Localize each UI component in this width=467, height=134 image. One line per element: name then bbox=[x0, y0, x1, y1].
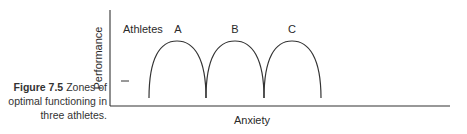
series-label-b: B bbox=[231, 23, 238, 35]
legend-title: Athletes bbox=[123, 23, 163, 35]
series-label-c: C bbox=[288, 23, 296, 35]
curve-b bbox=[206, 41, 264, 98]
y-axis-label: Performance bbox=[92, 27, 104, 90]
curve-a bbox=[149, 41, 206, 98]
series-label-a: A bbox=[174, 23, 182, 35]
curve-c bbox=[264, 41, 321, 98]
chart: Performance Anxiety Athletes A B C bbox=[0, 0, 467, 134]
x-axis-label: Anxiety bbox=[234, 114, 271, 126]
